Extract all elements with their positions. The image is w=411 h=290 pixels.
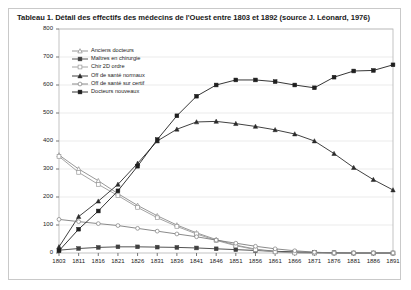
y-axis-tick-label: 200: [17, 193, 53, 199]
legend-marker-icon: [71, 72, 91, 80]
y-axis-tick-label: 500: [17, 109, 53, 115]
chart-canvas: [9, 9, 402, 281]
legend-marker-icon: [71, 80, 91, 88]
legend-item[interactable]: Off de santé sur certif: [71, 80, 191, 88]
legend-marker-icon: [71, 55, 91, 63]
series-chir-2d-ordre: [57, 155, 395, 255]
y-axis-tick-label: 700: [17, 53, 53, 59]
series-anciens-docteurs: [57, 153, 395, 255]
legend-item-label: Maîtres en chirurgie: [91, 55, 140, 63]
chart-figure: Tableau 1. Détail des effectifs des méde…: [8, 8, 401, 280]
y-axis-tick-label: 400: [17, 137, 53, 143]
legend-item[interactable]: Off de santé normaux: [71, 72, 191, 80]
chart-legend: Anciens docteursMaîtres en chirurgieChir…: [71, 47, 191, 96]
y-axis-tick-label: 100: [17, 221, 53, 227]
x-axis-tick-label: 1891: [382, 258, 404, 264]
legend-item-label: Anciens docteurs: [91, 47, 134, 55]
legend-item[interactable]: Chir 2D ordre: [71, 63, 191, 71]
legend-item-label: Docteurs nouveaux: [91, 88, 139, 96]
legend-item[interactable]: Maîtres en chirurgie: [71, 55, 191, 63]
series-off-de-sant-normaux: [57, 119, 395, 249]
y-axis-tick-label: 800: [17, 25, 53, 31]
y-axis-tick-label: 300: [17, 165, 53, 171]
plot-area: 0100200300400500600700800180318111816182…: [9, 9, 402, 281]
legend-marker-icon: [71, 88, 91, 96]
y-axis-tick-label: 600: [17, 81, 53, 87]
legend-item[interactable]: Anciens docteurs: [71, 47, 191, 55]
legend-item[interactable]: Docteurs nouveaux: [71, 88, 191, 96]
legend-item-label: Chir 2D ordre: [91, 63, 125, 71]
legend-item-label: Off de santé normaux: [91, 72, 145, 80]
y-axis-tick-label: 0: [17, 249, 53, 255]
legend-marker-icon: [71, 47, 91, 55]
legend-marker-icon: [71, 63, 91, 71]
legend-item-label: Off de santé sur certif: [91, 80, 144, 88]
